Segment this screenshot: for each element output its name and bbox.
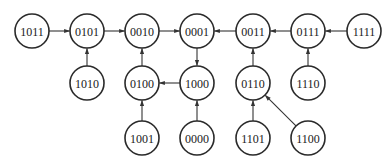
node-label: 0001: [185, 25, 209, 39]
state-node-1011: 1011: [15, 14, 49, 48]
node-label: 1001: [130, 132, 154, 146]
state-node-0011: 0011: [236, 14, 270, 48]
state-node-1000: 1000: [180, 66, 214, 100]
node-label: 0100: [130, 77, 154, 91]
state-node-1110: 1110: [291, 66, 325, 100]
state-diagram: 1011010100100001001101111111101001001000…: [0, 0, 390, 166]
node-label: 1000: [185, 77, 209, 91]
node-label: 1100: [296, 132, 320, 146]
node-label: 1111: [353, 25, 376, 39]
state-node-1101: 1101: [236, 121, 270, 155]
node-label: 0110: [241, 77, 265, 91]
state-node-1111: 1111: [347, 14, 381, 48]
node-label: 0101: [75, 25, 99, 39]
state-node-0110: 0110: [236, 66, 270, 100]
node-label: 1011: [20, 25, 44, 39]
node-label: 1010: [75, 77, 99, 91]
edge-1100-to-0110: [265, 95, 296, 126]
node-label: 0111: [296, 25, 319, 39]
state-node-0000: 0000: [180, 121, 214, 155]
state-node-0100: 0100: [125, 66, 159, 100]
nodes-layer: 1011010100100001001101111111101001001000…: [15, 14, 381, 155]
state-node-1100: 1100: [291, 121, 325, 155]
state-node-1001: 1001: [125, 121, 159, 155]
state-node-0001: 0001: [180, 14, 214, 48]
node-label: 0011: [241, 25, 265, 39]
state-node-0111: 0111: [291, 14, 325, 48]
node-label: 0010: [130, 25, 154, 39]
state-node-0010: 0010: [125, 14, 159, 48]
node-label: 0000: [185, 132, 209, 146]
state-node-0101: 0101: [70, 14, 104, 48]
node-label: 1101: [241, 132, 265, 146]
state-node-1010: 1010: [70, 66, 104, 100]
node-label: 1110: [296, 77, 319, 91]
